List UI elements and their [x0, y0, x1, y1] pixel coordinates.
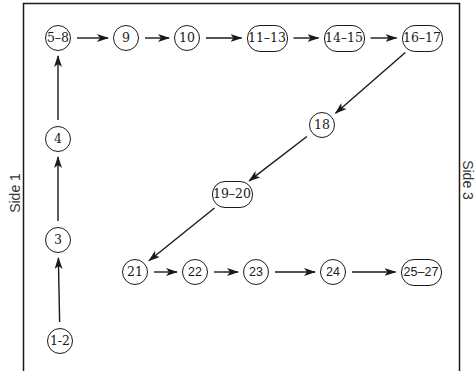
arrow-n9-to-n10 [336, 53, 406, 114]
node-n8: 14–15 [324, 25, 365, 52]
node-n2: 3 [45, 227, 71, 253]
node-n15: 24 [320, 259, 346, 285]
side-label-right: Side 3 [460, 160, 475, 200]
node-n5: 9 [113, 25, 139, 51]
node-n4: 5–8 [45, 25, 71, 51]
node-n13: 22 [182, 259, 208, 285]
arrow-n1-to-n2 [58, 258, 59, 322]
node-n9: 16–17 [402, 25, 443, 52]
arrow-n10-to-n11 [249, 137, 307, 181]
flow-diagram: 1-2345–891011–1314–1516–171819–202122232… [0, 0, 475, 371]
node-n11: 19–20 [212, 181, 253, 208]
node-n16: 25–27 [401, 259, 442, 286]
node-n14: 23 [243, 259, 269, 285]
node-n7: 11–13 [247, 25, 288, 52]
node-n10: 18 [309, 112, 335, 138]
arrow-n11-to-n12 [149, 208, 214, 261]
side-label-left: Side 1 [7, 173, 23, 213]
node-n3: 4 [45, 126, 71, 152]
node-n6: 10 [174, 25, 200, 51]
node-n1: 1-2 [47, 328, 73, 354]
node-n12: 21 [122, 259, 148, 285]
